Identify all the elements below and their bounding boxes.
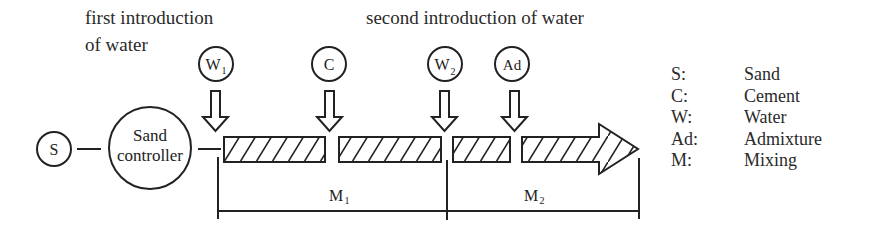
legend-row: C: Cement (671, 86, 822, 108)
legend-value: Water (744, 107, 787, 129)
legend-key: M: (671, 150, 744, 172)
down-arrow-icon (203, 91, 228, 131)
mixing-segment-3 (453, 137, 510, 162)
svg-text:W: W (205, 56, 221, 73)
legend-row: S: Sand (671, 64, 822, 86)
m1-subscript: 1 (345, 195, 350, 206)
mixing-segment-2 (339, 137, 441, 162)
output-arrow-icon (522, 124, 638, 174)
legend-key: Ad: (671, 129, 744, 151)
down-arrow-icon (317, 91, 342, 131)
stage-m1-label: M 1 (329, 187, 350, 206)
water1-label: W (205, 56, 221, 73)
legend-value: Mixing (744, 150, 797, 172)
down-arrow-icon (432, 91, 457, 131)
down-arrow-icon (502, 91, 527, 131)
water1-subscript: 1 (222, 65, 227, 76)
sand-controller-node: Sand controller (109, 107, 191, 189)
m2-label: M (524, 187, 538, 204)
legend-value: Cement (744, 86, 800, 108)
legend-row: M: Mixing (671, 150, 822, 172)
water1-node: W 1 (199, 47, 233, 81)
water2-label: W (434, 56, 450, 73)
legend-key: C: (671, 86, 744, 108)
sand-node: S (37, 132, 71, 166)
mixing-segment-1 (224, 137, 325, 162)
legend: S: Sand C: Cement W: Water Ad: Admixture… (671, 64, 822, 172)
legend-row: Ad: Admixture (671, 129, 822, 151)
m2-subscript: 2 (540, 195, 545, 206)
sand-node-label: S (50, 141, 59, 158)
m1-label: M (329, 187, 343, 204)
cement-node: C (312, 47, 346, 81)
sand-controller-label-line1: Sand (133, 126, 168, 145)
cement-label: C (324, 56, 335, 73)
legend-row: W: Water (671, 107, 822, 129)
water2-subscript: 2 (451, 66, 456, 77)
legend-value: Admixture (744, 129, 822, 151)
stage-m2-label: M 2 (524, 187, 545, 206)
water2-node: W 2 (428, 47, 462, 81)
legend-value: Sand (744, 64, 780, 86)
admixture-node: Ad (495, 47, 529, 81)
sand-controller-label-line2: controller (117, 146, 183, 165)
admixture-label: Ad (503, 57, 522, 73)
legend-key: S: (671, 64, 744, 86)
legend-key: W: (671, 107, 744, 129)
